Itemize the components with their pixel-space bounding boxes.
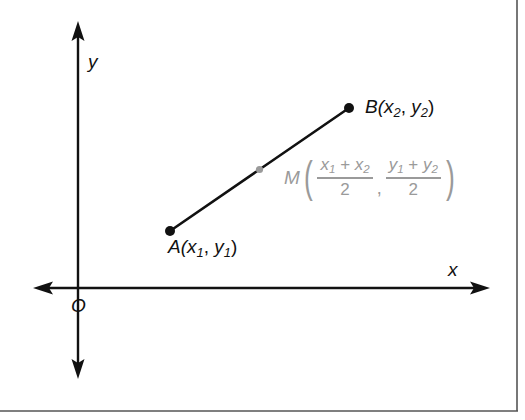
point-a-separator: ,: [204, 236, 215, 257]
point-b-marker: [344, 103, 354, 113]
point-m-paren-open: (: [304, 155, 313, 199]
midpoint-x-numerator: x1 + x2: [317, 156, 372, 177]
point-b-label: B(x2, y2): [365, 97, 434, 120]
midpoint-y-num-first: y: [389, 155, 398, 174]
point-b-sub-y: 2: [421, 105, 428, 120]
point-a-close: ): [231, 236, 237, 257]
point-a-open: A(: [168, 236, 187, 257]
coordinate-plane-svg: [0, 0, 525, 420]
point-b-var-x: x: [384, 96, 394, 117]
point-b-open: B(: [365, 96, 384, 117]
point-b-var-y: y: [411, 96, 421, 117]
point-m-label: M ( x1 + x2 2 , y1 + y2 2 ): [284, 155, 458, 199]
point-a-var-x: x: [187, 236, 197, 257]
point-b-sub-x: 2: [394, 105, 401, 120]
midpoint-diagram: y x O B(x2, y2) A(x1, y1) M ( x1 + x2 2 …: [0, 0, 525, 420]
midpoint-y-numerator: y1 + y2: [386, 156, 441, 177]
x-axis-label: x: [448, 260, 458, 279]
midpoint-separator: ,: [377, 179, 382, 199]
origin-label: O: [71, 296, 86, 315]
point-a-var-y: y: [214, 236, 224, 257]
midpoint-x-num-second-sub: 2: [363, 163, 369, 175]
point-a-sub-y: 1: [224, 245, 231, 260]
point-b-separator: ,: [401, 96, 412, 117]
midpoint-y-fraction: y1 + y2 2: [386, 156, 441, 198]
point-m-marker: [256, 166, 263, 173]
point-a-label: A(x1, y1): [168, 237, 237, 260]
midpoint-y-num-second: y: [423, 155, 432, 174]
midpoint-y-denominator: 2: [409, 179, 418, 198]
point-a-sub-x: 1: [197, 245, 204, 260]
midpoint-y-num-second-sub: 2: [432, 163, 438, 175]
midpoint-x-num-plus: +: [335, 155, 354, 174]
midpoint-x-fraction: x1 + x2 2: [317, 156, 372, 198]
y-axis-label: y: [88, 52, 98, 71]
point-m-name: M: [284, 168, 300, 187]
midpoint-x-denominator: 2: [340, 179, 349, 198]
midpoint-x-num-second: x: [355, 155, 364, 174]
midpoint-y-num-plus: +: [404, 155, 423, 174]
point-m-paren-close: ): [446, 155, 455, 199]
point-a-marker: [165, 226, 175, 236]
midpoint-x-num-first: x: [320, 155, 329, 174]
point-b-close: ): [428, 96, 434, 117]
